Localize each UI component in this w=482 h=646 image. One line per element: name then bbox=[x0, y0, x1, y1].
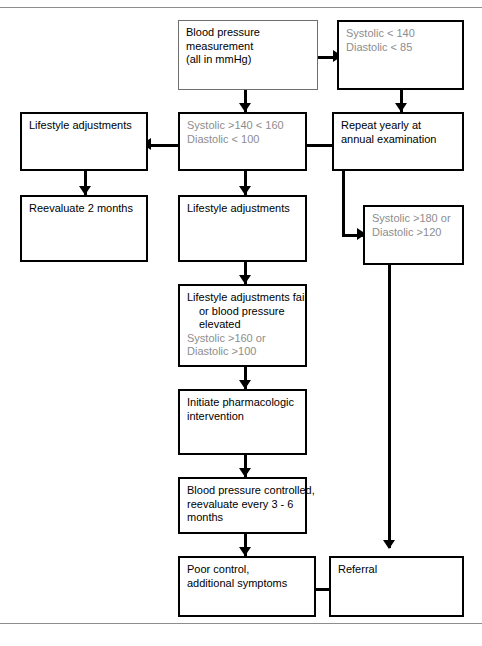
node-line: elevated bbox=[187, 318, 299, 332]
node-line: Systolic >140 < 160 bbox=[187, 119, 299, 133]
node-line: Diastolic >120 bbox=[372, 226, 456, 240]
arrowhead-measurement-to-stage-one bbox=[239, 103, 251, 112]
node-line: intervention bbox=[187, 410, 299, 424]
node-poor-control[interactable]: Poor control, additional symptoms bbox=[178, 556, 316, 617]
flowchart-page: Blood pressure measurement (all in mmHg)… bbox=[0, 0, 482, 646]
node-line: or blood pressure bbox=[187, 305, 299, 319]
node-line: measurement bbox=[186, 40, 311, 54]
arrowhead-lifestyle-left-to-reevaluate bbox=[79, 186, 91, 195]
arrowhead-stage-one-to-lifestyle-center bbox=[239, 186, 251, 195]
node-line: months bbox=[187, 511, 299, 525]
node-line: Systolic >180 or bbox=[372, 212, 456, 226]
node-bp-measurement[interactable]: Blood pressure measurement (all in mmHg) bbox=[178, 20, 318, 90]
node-line: Blood pressure bbox=[186, 26, 311, 40]
arrowhead-normal-to-repeat bbox=[395, 103, 407, 112]
node-line: reevaluate every 3 - 6 bbox=[187, 498, 299, 512]
arrowhead-severe-to-referral bbox=[383, 540, 395, 549]
node-line: additional symptoms bbox=[187, 577, 308, 591]
node-line: Initiate pharmacologic bbox=[187, 396, 299, 410]
node-line: Reevaluate 2 months bbox=[29, 202, 140, 216]
arrowhead-lifestyle-center-to-fail bbox=[239, 275, 251, 284]
node-line: Lifestyle adjustments fail bbox=[187, 291, 299, 305]
node-lifestyle-adjustments-center[interactable]: Lifestyle adjustments bbox=[178, 195, 307, 262]
node-line: annual examination bbox=[341, 133, 456, 147]
node-normal-range[interactable]: Systolic < 140 Diastolic < 85 bbox=[337, 20, 464, 90]
node-line: (all in mmHg) bbox=[186, 53, 311, 67]
page-rule-top bbox=[0, 7, 482, 8]
node-severe-range[interactable]: Systolic >180 or Diastolic >120 bbox=[363, 205, 464, 265]
node-line: Systolic >160 or bbox=[187, 332, 299, 346]
node-stage-one-range[interactable]: Systolic >140 < 160 Diastolic < 100 bbox=[178, 112, 307, 171]
node-line: Lifestyle adjustments bbox=[29, 119, 140, 133]
node-line: Poor control, bbox=[187, 563, 308, 577]
connector-stage-one-to-lifestyle-left bbox=[148, 144, 180, 147]
node-lifestyle-adjustments-left[interactable]: Lifestyle adjustments bbox=[20, 112, 148, 171]
node-referral[interactable]: Referral bbox=[329, 556, 464, 617]
node-repeat-yearly[interactable]: Repeat yearly at annual examination bbox=[332, 112, 464, 171]
node-line: Diastolic < 100 bbox=[187, 133, 299, 147]
node-line: Systolic < 140 bbox=[346, 27, 456, 41]
node-line: Lifestyle adjustments bbox=[187, 202, 299, 216]
node-reevaluate-2-months[interactable]: Reevaluate 2 months bbox=[20, 195, 148, 262]
node-bp-controlled[interactable]: Blood pressure controlled, reevaluate ev… bbox=[178, 477, 307, 534]
node-line: Blood pressure controlled, bbox=[187, 484, 299, 498]
node-line: Repeat yearly at bbox=[341, 119, 456, 133]
node-initiate-pharmacologic[interactable]: Initiate pharmacologic intervention bbox=[178, 389, 307, 455]
node-line: Referral bbox=[338, 563, 456, 577]
node-lifestyle-fail[interactable]: Lifestyle adjustments fail or blood pres… bbox=[178, 284, 307, 367]
arrowhead-fail-to-pharmacologic bbox=[239, 380, 251, 389]
connector-severe-to-referral bbox=[388, 265, 391, 548]
node-line: Diastolic < 85 bbox=[346, 41, 456, 55]
node-line: Diastolic >100 bbox=[187, 345, 299, 359]
arrowhead-pharmacologic-to-controlled bbox=[239, 468, 251, 477]
arrowhead-controlled-to-poor bbox=[239, 547, 251, 556]
page-rule-bottom bbox=[0, 623, 482, 624]
